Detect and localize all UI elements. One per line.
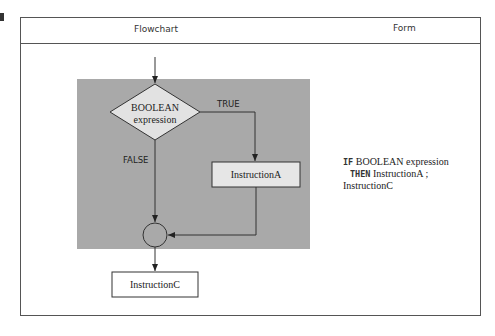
form-line-if-text: BOOLEAN expression <box>356 156 449 167</box>
form-line-c: InstructionC <box>343 180 449 191</box>
form-code: IF BOOLEAN expression THEN InstructionA … <box>343 156 449 191</box>
form-line-if: IF BOOLEAN expression <box>343 156 449 168</box>
instruction-a-label: InstructionA <box>231 169 282 180</box>
true-label: TRUE <box>216 99 240 109</box>
keyword-if: IF <box>343 157 353 167</box>
decision-label-line1: BOOLEAN <box>131 102 179 113</box>
false-label: FALSE <box>123 155 148 165</box>
form-line-then: THEN InstructionA ; <box>343 168 449 180</box>
decision-label-line2: expression <box>134 114 177 125</box>
instruction-c-label: InstructionC <box>130 279 180 290</box>
form-line-then-text: InstructionA ; <box>373 168 428 179</box>
form-line-c-text: InstructionC <box>343 180 393 191</box>
keyword-then: THEN <box>350 169 370 179</box>
